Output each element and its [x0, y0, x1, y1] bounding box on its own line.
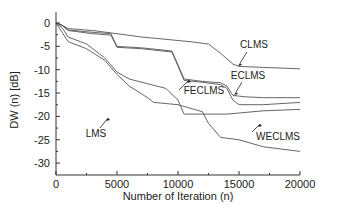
annotation-label-feclms: FECLMS: [184, 85, 225, 96]
y-tick-label: -30: [34, 157, 50, 169]
annotation-arrow-clms: [240, 52, 247, 63]
annotation-arrow-eclms: [236, 82, 242, 92]
chart-canvas: CLMSECLMSFECLMSWECLMSLMS 0-5-10-15-20-25…: [0, 0, 340, 223]
y-tick-label: 0: [44, 17, 50, 29]
y-tick-label: -20: [34, 110, 50, 122]
annotation-label-weclms: WECLMS: [256, 131, 300, 142]
x-tick-label: 5000: [105, 178, 129, 190]
arrowhead-icon: [234, 92, 238, 95]
annotation-label-lms: LMS: [86, 128, 107, 139]
y-tick-label: -5: [40, 40, 50, 52]
y-tick-label: -10: [34, 64, 50, 76]
x-tick-label: 20000: [285, 178, 316, 190]
x-tick-label: 15000: [224, 178, 255, 190]
series-line-feclms: [56, 23, 300, 105]
axes: 0-5-10-15-20-25-3005000100001500020000: [34, 12, 315, 190]
x-tick-label: 10000: [163, 178, 194, 190]
arrowhead-icon: [238, 63, 242, 66]
y-axis-title: DW (n) [dB]: [8, 71, 20, 128]
series-line-weclms: [56, 23, 300, 114]
annotation-label-clms: CLMS: [240, 39, 268, 50]
y-tick-label: -15: [34, 87, 50, 99]
series-line-eclms: [56, 23, 300, 98]
annotation-arrow-lms: [100, 118, 108, 128]
x-tick-label: 0: [53, 178, 59, 190]
plot-area: CLMSECLMSFECLMSWECLMSLMS: [56, 23, 300, 151]
x-axis-title: Number of Iteration (n): [123, 190, 234, 202]
y-tick-label: -25: [34, 134, 50, 146]
annotation-label-eclms: ECLMS: [231, 70, 266, 81]
